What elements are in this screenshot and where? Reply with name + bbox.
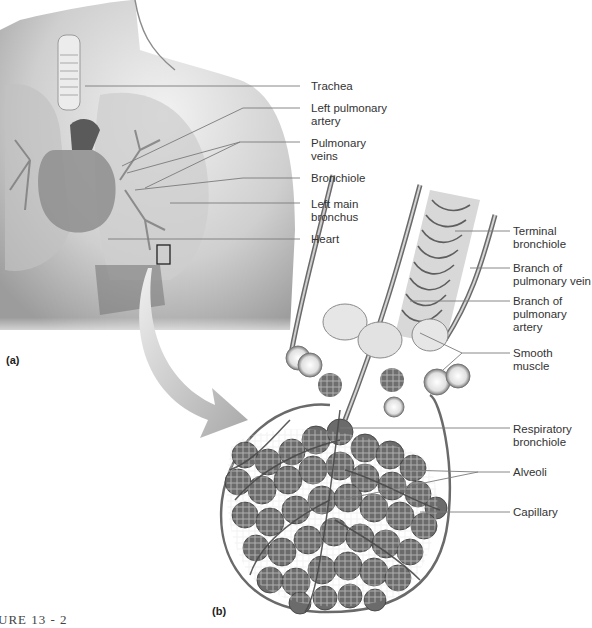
label-left-pulmonary-artery: Left pulmonary artery bbox=[311, 102, 387, 128]
label-trachea: Trachea bbox=[311, 80, 353, 93]
label-pulmonary-veins: Pulmonary veins bbox=[311, 137, 366, 163]
label-branch-pulmonary-vein: Branch of pulmonary vein bbox=[513, 262, 591, 288]
label-respiratory-bronchiole: Respiratory bronchiole bbox=[513, 423, 572, 449]
label-heart: Heart bbox=[311, 233, 339, 246]
label-smooth-muscle: Smooth muscle bbox=[513, 347, 592, 373]
figure-caption: URE 13 - 2 bbox=[0, 612, 68, 628]
label-terminal-bronchiole: Terminal bronchiole bbox=[513, 225, 566, 251]
label-capillary: Capillary bbox=[513, 506, 558, 519]
label-bronchiole: Bronchiole bbox=[311, 172, 365, 185]
label-alveoli: Alveoli bbox=[513, 466, 547, 479]
label-branch-pulmonary-artery: Branch of pulmonary artery bbox=[513, 295, 592, 334]
label-left-main-bronchus: Left main bronchus bbox=[311, 198, 358, 224]
panel-a-tag: (a) bbox=[6, 354, 19, 366]
panel-b-tag: (b) bbox=[212, 605, 226, 617]
